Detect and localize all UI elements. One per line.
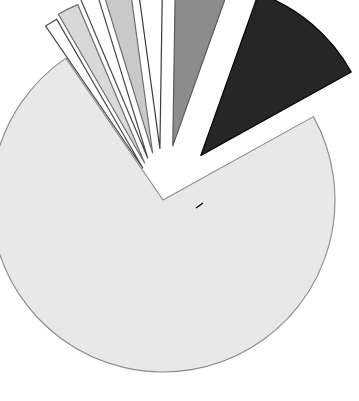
pie-chart-canvas [0,0,359,401]
pie-chart-figure [0,0,359,401]
